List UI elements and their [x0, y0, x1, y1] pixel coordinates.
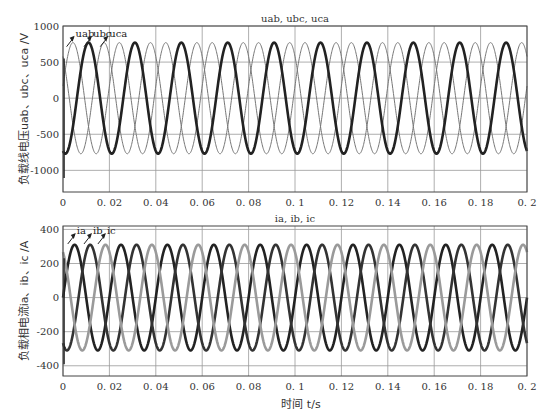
x-tick-label: 0. 12: [329, 381, 354, 392]
x-tick-label: 0. 02: [97, 381, 122, 392]
x-tick-label: 0. 08: [236, 197, 261, 208]
current-plot: 00. 020. 040. 060. 080. 10. 120. 140. 16…: [17, 213, 537, 411]
y-tick-label: -200: [37, 326, 59, 337]
svg-text:ia: ia: [77, 225, 86, 236]
x-tick-label: 0: [60, 197, 66, 208]
voltage-plot: 00. 020. 040. 060. 080. 10. 120. 140. 16…: [17, 13, 537, 208]
y-axis-label: 负载相电流ia、ib、ic /A: [17, 240, 31, 361]
x-tick-label: 0. 2: [517, 197, 536, 208]
svg-text:uca: uca: [109, 28, 127, 39]
y-tick-label: 1000: [34, 21, 59, 32]
x-tick-label: 0. 18: [468, 381, 493, 392]
y-tick-label: 200: [40, 258, 59, 269]
x-tick-label: 0. 12: [329, 197, 354, 208]
x-tick-label: 0. 04: [143, 381, 168, 392]
x-tick-label: 0. 02: [97, 197, 122, 208]
x-tick-label: 0: [60, 381, 66, 392]
y-tick-label: 500: [40, 57, 59, 68]
y-tick-label: 0: [53, 292, 59, 303]
y-tick-label: -500: [37, 129, 59, 140]
svg-text:ib: ib: [93, 225, 103, 236]
x-tick-label: 0. 14: [375, 381, 400, 392]
x-tick-label: 0. 16: [421, 381, 446, 392]
x-tick-label: 0. 06: [189, 197, 214, 208]
svg-text:ic: ic: [107, 225, 116, 236]
x-tick-label: 0. 2: [517, 381, 536, 392]
y-tick-label: 0: [53, 93, 59, 104]
x-tick-label: 0. 06: [189, 381, 214, 392]
x-tick-label: 0. 08: [236, 381, 261, 392]
x-tick-label: 0. 14: [375, 197, 400, 208]
x-axis-label: 时间 t/s: [281, 398, 321, 411]
x-tick-label: 0. 1: [285, 197, 304, 208]
y-tick-label: -1000: [30, 165, 59, 176]
x-tick-label: 0. 16: [421, 197, 446, 208]
y-tick-label: -400: [37, 360, 59, 371]
y-axis-label: 负载线电压uab、ubc、uca /V: [17, 32, 31, 185]
x-tick-label: 0. 1: [285, 381, 304, 392]
x-tick-label: 0. 18: [468, 197, 493, 208]
chart-title: uab, ubc, uca: [261, 13, 329, 24]
chart-title: ia, ib, ic: [275, 213, 316, 224]
y-tick-label: 400: [40, 224, 59, 235]
chart-figure: 00. 020. 040. 060. 080. 10. 120. 140. 16…: [0, 0, 550, 416]
svg-text:uab: uab: [76, 28, 95, 39]
x-tick-label: 0. 04: [143, 197, 168, 208]
